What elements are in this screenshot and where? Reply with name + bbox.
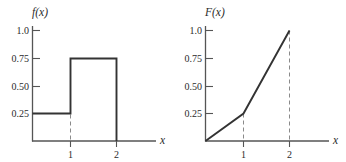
y-tick-label-0.75-pdf: 0.75 bbox=[12, 53, 30, 64]
x-axis-title-pdf: x bbox=[159, 134, 166, 146]
figure-container: f(x) 1.0 0.75 0.50 0.25 1 2 x bbox=[0, 0, 346, 162]
y-tick-label-0.25-pdf: 0.25 bbox=[12, 108, 30, 119]
x-tick-label-2-cdf: 2 bbox=[287, 149, 292, 160]
x-tick-label-2-pdf: 2 bbox=[114, 149, 119, 160]
y-tick-label-1.0-pdf: 1.0 bbox=[17, 25, 30, 36]
x-tick-label-1-pdf: 1 bbox=[68, 149, 73, 160]
x-axis-title-cdf: x bbox=[332, 134, 339, 146]
y-tick-label-0.50-pdf: 0.50 bbox=[12, 81, 30, 92]
y-axis-title-pdf: f(x) bbox=[32, 6, 48, 19]
y-tick-label-0.50-cdf: 0.50 bbox=[185, 81, 203, 92]
chart-panel-cdf: F(x) 1.0 0.75 0.50 0.25 1 2 x bbox=[173, 0, 346, 162]
x-tick-label-1-cdf: 1 bbox=[241, 149, 246, 160]
y-tick-label-0.25-cdf: 0.25 bbox=[185, 108, 203, 119]
y-tick-label-1.0-cdf: 1.0 bbox=[190, 25, 203, 36]
data-series-pdf bbox=[33, 59, 117, 142]
y-axis-title-cdf: F(x) bbox=[204, 6, 225, 19]
y-tick-label-0.75-cdf: 0.75 bbox=[185, 53, 203, 64]
chart-panel-pdf: f(x) 1.0 0.75 0.50 0.25 1 2 x bbox=[0, 0, 173, 162]
data-series-cdf bbox=[206, 31, 290, 142]
